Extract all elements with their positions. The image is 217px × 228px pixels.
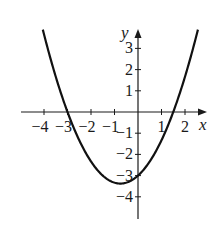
- x-tick-label: 2: [181, 118, 189, 135]
- y-axis-label: y: [119, 23, 129, 42]
- y-tick-label: 1: [125, 82, 133, 99]
- x-tick-label: −4: [31, 118, 48, 135]
- x-tick-label: −2: [78, 118, 95, 135]
- x-tick-label: −3: [55, 118, 72, 135]
- x-axis-label: x: [198, 115, 207, 134]
- y-tick-label: 2: [125, 61, 133, 78]
- y-tick-label: −2: [116, 145, 133, 162]
- y-tick-label: −1: [116, 124, 133, 141]
- parabola-plot: −4−3−2−112321−1−2−3−4 x y: [0, 0, 217, 228]
- y-axis-arrow-icon: [135, 29, 142, 38]
- y-tick-label: −4: [116, 188, 133, 205]
